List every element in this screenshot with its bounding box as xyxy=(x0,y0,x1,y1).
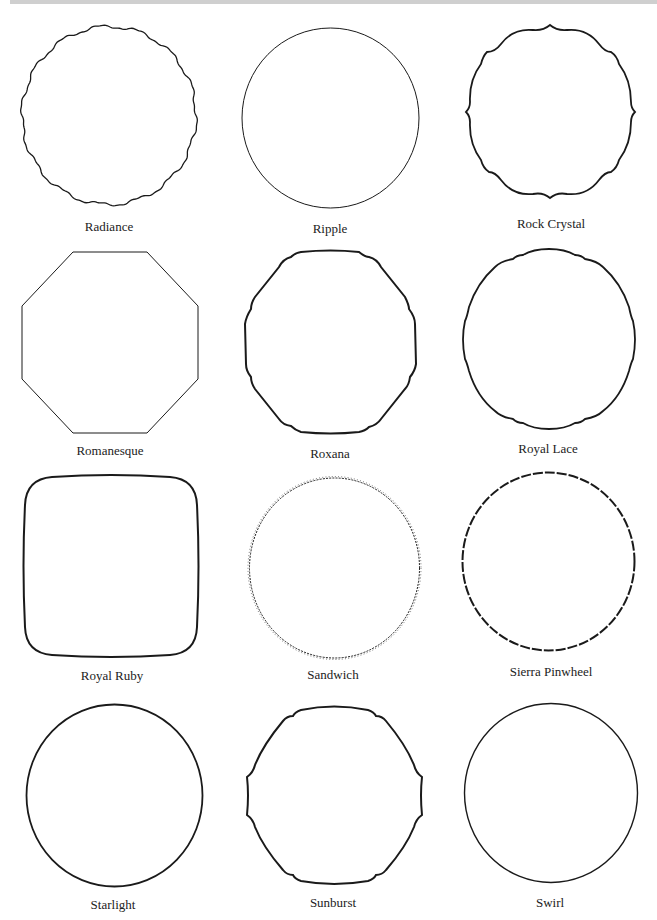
label-sandwich: Sandwich xyxy=(307,667,358,683)
label-ripple: Ripple xyxy=(313,221,348,237)
top-gray-bar xyxy=(10,0,657,4)
label-royal-ruby: Royal Ruby xyxy=(81,668,143,684)
royal-lace-outline xyxy=(461,247,638,433)
starlight-outline xyxy=(25,703,204,888)
label-starlight: Starlight xyxy=(91,897,136,913)
roxana-outline xyxy=(243,249,419,435)
sierra-pinwheel-outline xyxy=(460,470,637,653)
label-sierra-pinwheel: Sierra Pinwheel xyxy=(510,664,593,680)
label-royal-lace: Royal Lace xyxy=(518,441,578,457)
royal-ruby-outline xyxy=(22,475,200,657)
radiance-outline xyxy=(20,25,198,206)
swirl-outline xyxy=(463,702,639,884)
label-swirl: Swirl xyxy=(536,895,564,911)
label-sunburst: Sunburst xyxy=(310,895,356,911)
label-roxana: Roxana xyxy=(310,446,350,462)
romanesque-outline xyxy=(21,251,199,434)
label-rock-crystal: Rock Crystal xyxy=(517,216,585,232)
sandwich-outline xyxy=(247,475,422,661)
label-radiance: Radiance xyxy=(85,219,133,235)
rock-crystal-outline xyxy=(463,22,638,201)
sunburst-outline xyxy=(246,705,423,886)
ripple-outline xyxy=(241,27,420,209)
label-romanesque: Romanesque xyxy=(76,443,143,459)
